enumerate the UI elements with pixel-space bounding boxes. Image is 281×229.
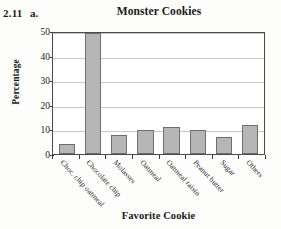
bar-slot — [132, 33, 158, 154]
exercise-part-letter: a. — [30, 7, 38, 19]
figure-container: 2.11 a. Monster Cookies Percentage 01020… — [0, 0, 281, 229]
y-axis-tick-label: 10 — [20, 125, 50, 135]
x-axis-category-labels: Choc. chip oatmealChocolate chipMolasses… — [52, 158, 281, 208]
bar[interactable] — [85, 33, 101, 154]
bar-slot — [211, 33, 237, 154]
bar[interactable] — [190, 130, 206, 154]
bar-slot — [159, 33, 185, 154]
y-axis-tick-label: 50 — [20, 27, 50, 37]
x-axis-category-label: Molasses — [111, 158, 137, 185]
bar[interactable] — [216, 137, 232, 154]
bar-slot — [237, 33, 263, 154]
y-axis-tick-label: 0 — [20, 150, 50, 160]
bar-slot — [106, 33, 132, 154]
bar[interactable] — [59, 144, 75, 154]
bar[interactable] — [242, 125, 258, 154]
x-axis-label: Favorite Cookie — [52, 210, 265, 221]
y-axis-tick-label: 30 — [20, 76, 50, 86]
bar[interactable] — [137, 130, 153, 154]
x-axis-category-label: Sugar — [218, 158, 237, 177]
bar-series — [53, 33, 264, 154]
chart-title: Monster Cookies — [52, 5, 266, 17]
bar[interactable] — [111, 135, 127, 154]
exercise-number: 2.11 — [3, 7, 22, 19]
y-axis-tick-group: 01020304050 — [14, 32, 50, 155]
bar-slot — [185, 33, 211, 154]
bar-slot — [80, 33, 106, 154]
plot-area — [52, 32, 265, 155]
bar-slot — [54, 33, 80, 154]
y-axis-tick-label: 20 — [20, 101, 50, 111]
y-axis-tick-label: 40 — [20, 52, 50, 62]
x-axis-category-label: Oatmeal — [138, 158, 163, 183]
x-axis-category-label: Others — [245, 158, 266, 179]
bar[interactable] — [163, 127, 179, 154]
